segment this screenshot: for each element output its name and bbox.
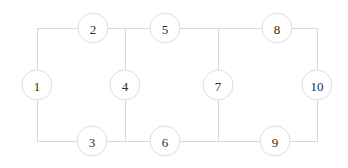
graph-canvas: 12345678910 [0,0,348,168]
graph-node-5[interactable]: 5 [150,13,180,43]
edge-layer [37,28,317,141]
graph-node-6[interactable]: 6 [150,126,180,156]
node-label-3: 3 [89,135,96,150]
node-label-4: 4 [122,79,129,94]
node-label-9: 9 [272,135,279,150]
graph-node-10[interactable]: 10 [302,70,332,100]
graph-node-9[interactable]: 9 [260,126,290,156]
node-label-6: 6 [162,135,169,150]
graph-node-2[interactable]: 2 [78,13,108,43]
node-label-1: 1 [34,79,41,94]
graph-node-3[interactable]: 3 [77,126,107,156]
node-label-10: 10 [311,79,324,94]
node-label-8: 8 [274,22,281,37]
node-label-5: 5 [162,22,169,37]
graph-figure: 12345678910 [0,0,348,168]
graph-node-7[interactable]: 7 [203,70,233,100]
node-label-2: 2 [90,22,97,37]
node-label-7: 7 [215,79,222,94]
graph-node-4[interactable]: 4 [110,70,140,100]
node-layer: 12345678910 [22,13,332,156]
graph-node-8[interactable]: 8 [262,13,292,43]
graph-node-1[interactable]: 1 [22,70,52,100]
